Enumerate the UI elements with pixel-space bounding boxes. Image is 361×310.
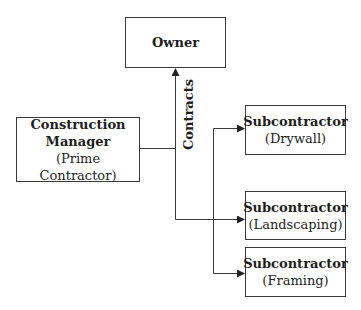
subcontractor-framing-node: Subcontractor (Framing) — [245, 247, 346, 297]
subcontractor-title: Subcontractor — [243, 199, 348, 216]
subcontractor-drywall-node: Subcontractor (Drywall) — [245, 105, 346, 155]
subcontractor-landscaping-node: Subcontractor (Landscaping) — [245, 191, 346, 240]
cm-title-line1: Construction — [30, 116, 125, 133]
subcontractor-title: Subcontractor — [243, 255, 348, 272]
cm-subtitle: (Prime Contractor) — [17, 150, 139, 184]
construction-manager-node: Construction Manager (Prime Contractor) — [16, 117, 140, 182]
contracts-label: Contracts — [181, 79, 196, 150]
subcontractor-title: Subcontractor — [243, 113, 348, 130]
subcontractor-subtitle: (Landscaping) — [248, 216, 342, 233]
owner-title: Owner — [152, 34, 199, 51]
subcontractor-subtitle: (Framing) — [262, 272, 328, 289]
subcontractor-subtitle: (Drywall) — [265, 130, 326, 147]
cm-title-line2: Manager — [46, 133, 111, 150]
owner-node: Owner — [125, 17, 226, 68]
